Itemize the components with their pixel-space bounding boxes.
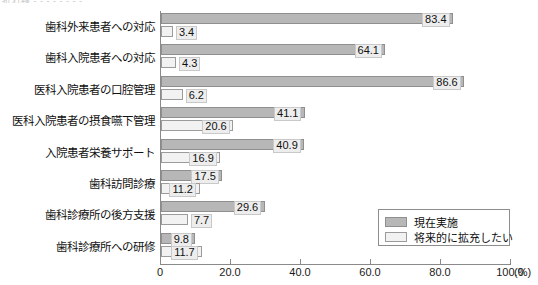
bar-value-label: 3.4	[176, 26, 197, 40]
bar-value-label: 4.3	[179, 57, 200, 71]
x-axis-tick	[370, 259, 371, 265]
bar-value-label: 7.7	[191, 214, 212, 228]
category-label: 歯科外来患者への対応	[0, 18, 155, 34]
bar-value-label: 17.5	[191, 170, 218, 184]
chart-legend: 現在実施 将来的に拡充したい	[378, 209, 510, 246]
x-axis-tick-label: 40.0	[289, 266, 310, 278]
legend-item-current: 現在実施	[385, 215, 458, 228]
x-axis-tick-label: 80.0	[429, 266, 450, 278]
bar-value-label: 64.1	[355, 44, 382, 58]
category-label: 入院患者栄養サポート	[0, 144, 155, 160]
bar-value-label: 16.9	[189, 152, 216, 166]
bar-value-label: 29.6	[234, 201, 261, 215]
chart-page: 折れ線 - - - - - - - - 020.040.060.080.0100…	[0, 0, 538, 285]
bar-value-label: 86.6	[433, 76, 460, 90]
bar-future	[161, 89, 183, 100]
bar-value-label: 9.8	[171, 233, 192, 247]
category-label: 歯科診療所への研修	[0, 238, 155, 254]
bar-group: 歯科入院患者への対応64.14.3	[0, 44, 538, 68]
legend-label-current: 現在実施	[414, 214, 458, 230]
bar-value-label: 6.2	[186, 89, 207, 103]
bar-group: 歯科訪問診療17.511.2	[0, 170, 538, 194]
legend-swatch-current-icon	[385, 217, 407, 227]
category-label: 医科入院患者の摂食嚥下管理	[0, 112, 155, 128]
category-label: 歯科入院患者への対応	[0, 49, 155, 65]
x-axis-tick	[510, 259, 511, 265]
x-axis-unit-label: (%)	[514, 266, 531, 278]
bar-value-label: 20.6	[202, 120, 229, 134]
x-axis-tick	[440, 259, 441, 265]
bar-group: 医科入院患者の口腔管理86.66.2	[0, 76, 538, 100]
bar-current	[161, 44, 385, 55]
bar-group: 入院患者栄養サポート40.916.9	[0, 139, 538, 163]
bar-value-label: 41.1	[274, 107, 301, 121]
category-label: 歯科訪問診療	[0, 175, 155, 191]
bar-future	[161, 214, 188, 225]
legend-item-future: 将来的に拡充したい	[385, 230, 513, 243]
bar-group: 医科入院患者の摂食嚥下管理41.120.6	[0, 107, 538, 131]
x-axis-tick	[230, 259, 231, 265]
top-cutoff-artifact-text: 折れ線 - - - - - - - -	[2, 0, 132, 3]
x-axis-tick-label: 0	[157, 266, 163, 278]
x-axis-tick-label: 20.0	[219, 266, 240, 278]
bar-current	[161, 13, 453, 24]
bar-group: 歯科外来患者への対応83.43.4	[0, 13, 538, 37]
legend-swatch-future-icon	[385, 232, 407, 242]
bar-value-label: 11.2	[169, 183, 196, 197]
legend-label-future: 将来的に拡充したい	[414, 229, 513, 245]
bar-value-label: 11.7	[171, 246, 198, 260]
x-axis-tick-label: 60.0	[359, 266, 380, 278]
bar-future	[161, 26, 173, 37]
bar-value-label: 83.4	[422, 13, 449, 27]
bar-future	[161, 57, 176, 68]
category-label: 医科入院患者の口腔管理	[0, 81, 155, 97]
x-axis-tick	[300, 259, 301, 265]
bar-value-label: 40.9	[273, 139, 300, 153]
category-label: 歯科診療所の後方支援	[0, 206, 155, 222]
bar-current	[161, 76, 464, 87]
